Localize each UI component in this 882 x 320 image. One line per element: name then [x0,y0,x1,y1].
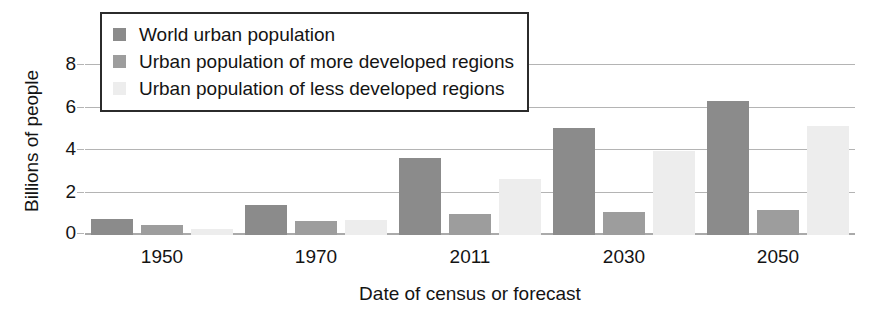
bar-group [707,44,849,235]
bar [399,158,441,235]
bar [191,229,233,235]
x-tick-label: 2050 [707,246,849,268]
bar [653,151,695,235]
bar [345,220,387,235]
legend-label: Urban population of more developed regio… [139,52,514,71]
y-tick-label: 8 [65,53,76,75]
bar [757,210,799,235]
x-tick-label: 2030 [553,246,695,268]
y-tick-mark [77,192,84,193]
y-tick-mark [77,64,84,65]
bar [807,126,849,235]
bar [707,101,749,235]
y-axis-title: Billions of people [21,31,43,251]
bar-group [553,44,695,235]
legend-item: Urban population of less developed regio… [113,75,514,102]
legend-label: Urban population of less developed regio… [139,79,504,98]
bar [295,221,337,235]
y-tick-label: 0 [65,222,76,244]
legend-item: World urban population [113,21,514,48]
bar [245,205,287,235]
bar [449,214,491,235]
bar [499,179,541,235]
legend-swatch-icon [113,28,126,41]
legend-label: World urban population [139,25,335,44]
bar [603,212,645,235]
y-tick-mark [77,149,84,150]
legend: World urban populationUrban population o… [100,12,529,112]
legend-item: Urban population of more developed regio… [113,48,514,75]
bar [553,128,595,235]
bar [91,219,133,235]
x-tick-label: 2011 [399,246,541,268]
x-axis-title: Date of census or forecast [85,283,855,305]
legend-swatch-icon [113,82,126,95]
y-tick-mark [77,233,84,234]
bar-chart: Billions of people 02468 195019702011203… [0,0,882,320]
x-tick-label: 1950 [91,246,233,268]
bar [141,225,183,235]
y-tick-label: 6 [65,96,76,118]
legend-swatch-icon [113,55,126,68]
y-tick-mark [77,107,84,108]
y-tick-label: 2 [65,181,76,203]
y-tick-label: 4 [65,138,76,160]
x-tick-label: 1970 [245,246,387,268]
